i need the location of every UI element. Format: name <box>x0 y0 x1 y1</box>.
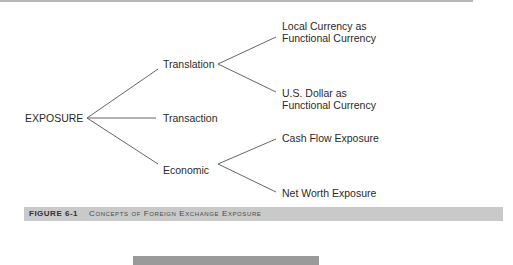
node-economic: Economic <box>163 164 209 176</box>
connector-translation-usd <box>218 64 276 92</box>
node-usd-line2: Functional Currency <box>282 99 376 111</box>
node-usd-line1: U.S. Dollar as <box>282 87 347 99</box>
figure-title: Concepts of Foreign Exchange Exposure <box>89 209 261 218</box>
node-translation: Translation <box>163 58 215 70</box>
connector-root-economic <box>87 118 158 164</box>
connector-economic-cashflow <box>218 139 276 164</box>
figure-caption: FIGURE 6-1 Concepts of Foreign Exchange … <box>24 207 503 221</box>
connector-translation-local <box>218 37 276 64</box>
node-net-worth-exposure: Net Worth Exposure <box>282 187 376 199</box>
tree-connectors <box>0 0 513 265</box>
connector-economic-networth <box>218 164 276 192</box>
connector-root-translation <box>87 69 158 118</box>
node-transaction: Transaction <box>163 112 217 124</box>
figure-number: FIGURE 6-1 <box>29 209 78 218</box>
node-exposure: EXPOSURE <box>25 112 83 124</box>
bottom-gray-bar <box>133 256 319 265</box>
node-local-currency-line2: Functional Currency <box>282 32 376 44</box>
node-cash-flow-exposure: Cash Flow Exposure <box>282 132 379 144</box>
node-local-currency-line1: Local Currency as <box>282 20 367 32</box>
